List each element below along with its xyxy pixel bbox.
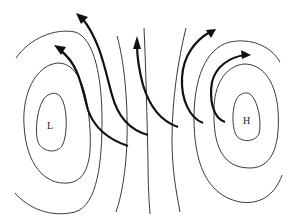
arrowhead-5 <box>241 50 251 59</box>
arrowhead-3 <box>133 36 141 49</box>
low-isobar-outer <box>15 31 102 214</box>
isobar-lines <box>0 0 291 224</box>
center-isobar-3 <box>172 28 186 212</box>
low-pressure-label: L <box>47 120 53 131</box>
center-isobar-1 <box>116 36 127 212</box>
wind-arrow-3 <box>137 44 178 127</box>
wind-arrow-1 <box>60 50 128 146</box>
wind-arrow-4 <box>182 32 210 123</box>
isobar-diagram: L H <box>0 0 291 224</box>
high-pressure-label: H <box>243 115 250 126</box>
center-isobar-2 <box>144 28 150 214</box>
